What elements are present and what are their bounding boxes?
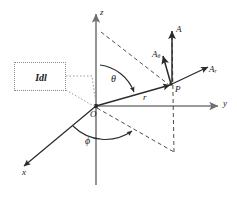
vector-A-theta-subscript: θ bbox=[158, 53, 161, 59]
z-axis-label: z bbox=[100, 8, 104, 17]
figure-canvas: z y x O P θ ϕ r A Aθ Ar Idl bbox=[0, 0, 237, 202]
vector-A-r-label: Ar bbox=[209, 65, 217, 75]
radius-vector-label: r bbox=[143, 93, 147, 102]
vector-A-theta-label: Aθ bbox=[152, 50, 160, 60]
origin-label: O bbox=[90, 110, 97, 119]
y-axis-label: y bbox=[223, 99, 227, 108]
radius-vector bbox=[96, 85, 170, 106]
vector-A-r-subscript: r bbox=[215, 68, 217, 74]
dashed-xy-projection bbox=[97, 108, 174, 152]
x-axis-label: x bbox=[22, 168, 26, 177]
theta-angle-label: θ bbox=[111, 74, 116, 84]
vector-A-base: A bbox=[176, 24, 182, 34]
point-P-marker bbox=[169, 82, 172, 85]
vector-A-label: A bbox=[176, 25, 182, 34]
diagram-svg bbox=[0, 0, 237, 202]
phi-angle-label: ϕ bbox=[85, 136, 90, 146]
phi-angle-arc bbox=[73, 126, 132, 139]
idl-callout-label: Idl bbox=[35, 73, 47, 83]
theta-angle-arc bbox=[100, 65, 134, 92]
vector-A-r bbox=[172, 67, 208, 84]
idl-callout-leader bbox=[66, 76, 96, 106]
idl-callout-text-wrap: Idl bbox=[15, 63, 67, 92]
point-P-label: P bbox=[175, 85, 181, 94]
idl-callout-box: Idl bbox=[14, 62, 66, 91]
vector-A-theta bbox=[163, 56, 171, 84]
